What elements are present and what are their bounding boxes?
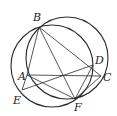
segment-BC — [39, 27, 101, 76]
segment-CF — [75, 76, 101, 99]
label-B: B — [33, 12, 41, 23]
label-F: F — [74, 102, 82, 113]
label-E: E — [13, 95, 21, 106]
label-C: C — [103, 72, 111, 83]
label-A: A — [18, 71, 26, 82]
segment-BF — [39, 27, 75, 99]
label-D: D — [95, 55, 104, 66]
geometry-figure: B A D C E F — [0, 0, 117, 116]
